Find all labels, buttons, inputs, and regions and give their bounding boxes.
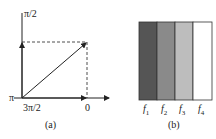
- label-three-pi-half: 3π/2: [23, 103, 41, 113]
- stripe-f2: [157, 22, 175, 100]
- stripe-f4: [193, 22, 212, 100]
- label-f2: f2: [161, 104, 167, 117]
- panel-b-stripes: [139, 22, 212, 100]
- figure-canvas: [0, 0, 216, 139]
- label-zero: 0: [85, 103, 90, 113]
- label-pi-half: π/2: [24, 9, 37, 19]
- stripe-f1: [139, 22, 157, 100]
- panel-a-diagram: [14, 13, 109, 98]
- stripe-f3: [175, 22, 193, 100]
- label-f1: f1: [143, 104, 149, 117]
- caption-a: (a): [45, 120, 56, 130]
- label-f4: f4: [198, 104, 204, 117]
- label-pi: π: [9, 93, 14, 103]
- label-f3: f3: [179, 104, 185, 117]
- diagonal-vector-arrow: [22, 43, 86, 98]
- caption-b: (b): [168, 120, 180, 130]
